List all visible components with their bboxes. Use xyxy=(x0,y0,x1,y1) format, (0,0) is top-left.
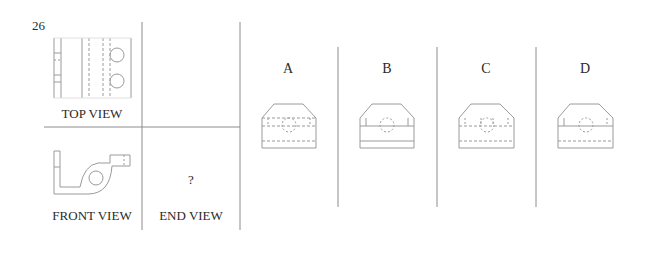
option-b-label[interactable]: B xyxy=(382,61,391,77)
option-d-drawing xyxy=(558,104,613,148)
top-view-label: TOP VIEW xyxy=(62,106,123,122)
option-a-label[interactable]: A xyxy=(283,61,293,77)
front-view-label: FRONT VIEW xyxy=(52,208,131,224)
front-view-drawing xyxy=(54,151,130,194)
top-view-drawing xyxy=(54,38,131,98)
option-c-label[interactable]: C xyxy=(481,61,490,77)
missing-view-marker: ? xyxy=(188,172,194,188)
option-a-drawing xyxy=(262,104,316,148)
option-d-label[interactable]: D xyxy=(580,61,590,77)
end-view-label: END VIEW xyxy=(159,208,223,224)
option-b-drawing xyxy=(360,104,414,148)
option-c-drawing xyxy=(459,104,514,148)
